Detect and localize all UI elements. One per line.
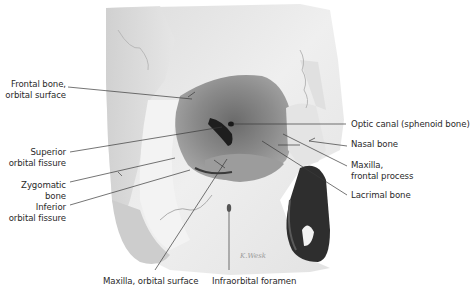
label-line: Inferior [9,202,66,213]
label-line: orbital fissure [9,213,66,224]
label-line: frontal process [351,171,413,182]
svg-text:K.Wesk: K.Wesk [239,252,266,260]
label-line: Optic canal (sphenoid bone) [351,119,470,130]
label-line: Maxilla, orbital surface [103,276,198,287]
label-line: Maxilla, [351,160,413,171]
label-line: Lacrimal bone [351,190,411,201]
infraorbital-foramen-shape [227,204,231,212]
label-line: orbital fissure [9,158,66,169]
label-nasal-bone: Nasal bone [351,139,398,150]
label-line: Frontal bone, [5,79,66,90]
label-superior-orbital-fissure: Superior orbital fissure [9,147,66,169]
label-infraorbital-foramen: Infraorbital foramen [212,276,296,287]
label-frontal-bone-orbital-surface: Frontal bone, orbital surface [5,79,66,101]
label-line: bone [21,191,66,202]
label-line: orbital surface [5,90,66,101]
label-maxilla-orbital-surface: Maxilla, orbital surface [103,276,198,287]
label-line: Nasal bone [351,139,398,150]
label-line: Superior [9,147,66,158]
label-optic-canal: Optic canal (sphenoid bone) [351,119,470,130]
label-lacrimal-bone: Lacrimal bone [351,190,411,201]
label-line: Infraorbital foramen [212,276,296,287]
label-line: Zygomatic [21,180,66,191]
label-inferior-orbital-fissure: Inferior orbital fissure [9,202,66,224]
label-zygomatic-bone: Zygomatic bone [21,180,66,202]
label-maxilla-frontal-process: Maxilla, frontal process [351,160,413,182]
